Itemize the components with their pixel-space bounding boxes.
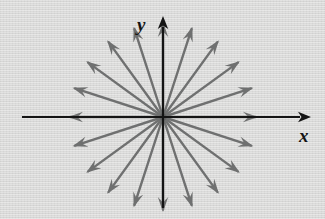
x-axis-label: x	[299, 126, 309, 145]
vector-arrow	[163, 40, 219, 117]
vector-arrow	[86, 117, 163, 173]
vector-arrowhead	[86, 61, 101, 74]
y-axis-label: y	[137, 15, 145, 34]
vector-arrow	[163, 27, 193, 117]
vector-arrow	[133, 27, 163, 117]
vector-arrowhead	[206, 40, 219, 55]
vector-field-canvas	[0, 0, 325, 219]
vector-arrowhead	[107, 40, 120, 55]
vector-arrow	[107, 117, 163, 194]
vector-arrowhead	[225, 160, 240, 173]
vector-arrow	[163, 117, 253, 147]
vector-arrow	[73, 117, 163, 147]
vector-arrowhead	[206, 179, 219, 194]
vector-arrow	[163, 117, 219, 194]
vector-arrowhead	[86, 160, 101, 173]
vector-arrow	[163, 87, 253, 117]
vector-arrowhead	[107, 179, 120, 194]
vector-arrow	[163, 117, 240, 173]
vector-arrow	[133, 117, 163, 207]
vector-field-figure: y x	[0, 0, 325, 219]
vector-arrow	[163, 117, 193, 207]
vector-arrow	[73, 87, 163, 117]
vector-arrowhead	[225, 61, 240, 74]
vector-arrow	[107, 40, 163, 117]
vector-arrow	[86, 61, 163, 117]
vector-arrow	[163, 61, 240, 117]
